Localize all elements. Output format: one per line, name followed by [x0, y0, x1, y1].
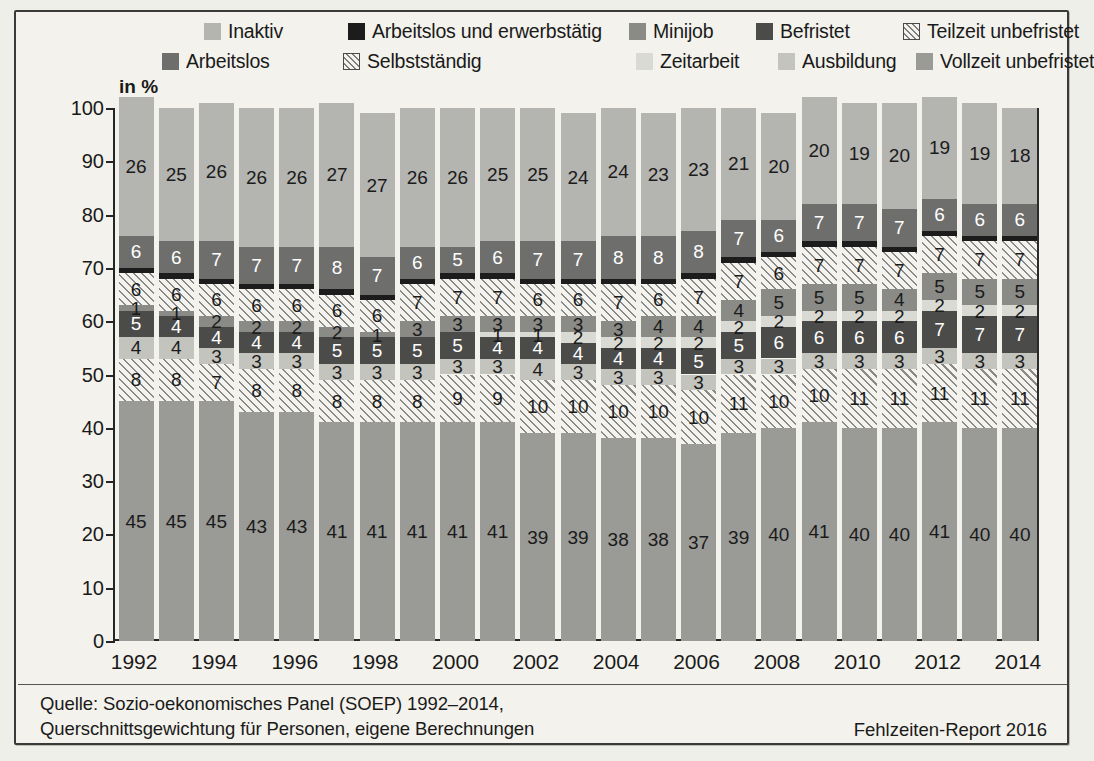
bar-2013[interactable]: 401137257619 — [962, 108, 997, 639]
segment-ausbildung-2000: 3 — [440, 359, 475, 375]
segment-value-selbst-2006: 10 — [688, 408, 709, 427]
segment-zeitarbeit-2010: 2 — [842, 311, 877, 322]
segment-zeitarbeit-2006: 2 — [681, 337, 716, 348]
segment-selbst-2009: 10 — [802, 369, 837, 422]
segment-value-teilzeit-2014: 7 — [1015, 250, 1026, 269]
segment-selbst-1997: 8 — [319, 380, 354, 423]
segment-value-inaktiv-2014: 18 — [1009, 146, 1030, 165]
segment-value-arbeitslos-2002: 7 — [533, 250, 544, 269]
bar-2003[interactable]: 391034236724 — [561, 108, 596, 639]
segment-value-befristet-2007: 5 — [733, 336, 744, 355]
bar-1996[interactable]: 4383426726 — [279, 108, 314, 639]
legend-item-selbst[interactable]: Selbstständig — [343, 48, 481, 74]
legend-item-teilzeit[interactable]: Teilzeit unbefristet — [903, 18, 1079, 44]
bar-2005[interactable]: 381034246823 — [641, 108, 676, 639]
segment-value-zeitarbeit-2013: 2 — [974, 301, 985, 320]
bar-2010[interactable]: 401136257719 — [842, 108, 877, 639]
segment-selbst-2011: 11 — [882, 369, 917, 428]
bar-1992[interactable]: 4584516626 — [119, 108, 154, 639]
segment-ausbildung-1995: 3 — [239, 353, 274, 369]
legend-item-ausbildung[interactable]: Ausbildung — [778, 48, 897, 74]
arbeitslos-swatch — [162, 53, 179, 70]
x-tick-label-2004: 2004 — [593, 650, 640, 674]
segment-teilzeit-2010: 7 — [842, 247, 877, 284]
legend-item-alew[interactable]: Arbeitslos und erwerbstätig — [348, 18, 602, 44]
bar-1995[interactable]: 4383426726 — [239, 108, 274, 639]
segment-minijob-1992: 1 — [119, 305, 154, 310]
segment-value-inaktiv-2005: 23 — [648, 165, 669, 184]
segment-arbeitslos-1993: 6 — [159, 241, 194, 273]
segment-value-arbeitslos-2012: 6 — [934, 205, 945, 224]
legend-item-arbeitslos[interactable]: Arbeitslos — [162, 48, 270, 74]
segment-value-inaktiv-2008: 20 — [768, 157, 789, 176]
segment-value-teilzeit-1995: 6 — [251, 296, 262, 315]
segment-value-ausbildung-2012: 3 — [934, 346, 945, 365]
bar-2004[interactable]: 381034237824 — [601, 108, 636, 639]
segment-value-vollzeit-2010: 40 — [849, 525, 870, 544]
segment-value-teilzeit-1992: 6 — [131, 280, 142, 299]
legend-item-vollzeit[interactable]: Vollzeit unbefristet — [916, 48, 1094, 74]
segment-ausbildung-1994: 3 — [199, 348, 234, 364]
minijob-swatch — [629, 23, 646, 40]
segment-value-teilzeit-1996: 6 — [291, 296, 302, 315]
segment-value-inaktiv-2013: 19 — [969, 144, 990, 163]
x-tick-label-2008: 2008 — [754, 650, 801, 674]
bar-1998[interactable]: 4183516727 — [360, 108, 395, 639]
legend-item-inaktiv[interactable]: Inaktiv — [204, 18, 283, 44]
segment-zeitarbeit-2012: 2 — [922, 300, 957, 311]
segment-value-minijob-2005: 4 — [653, 317, 664, 336]
segment-value-ausbildung-2006: 3 — [693, 373, 704, 392]
bar-1999[interactable]: 4183537626 — [400, 108, 435, 639]
legend-label-vollzeit: Vollzeit unbefristet — [940, 50, 1094, 73]
segment-arbeitslos-2002: 7 — [520, 241, 555, 278]
bar-2008[interactable]: 401036256620 — [761, 108, 796, 639]
segment-inaktiv-1998: 27 — [360, 113, 395, 257]
x-tick-label-2000: 2000 — [432, 650, 479, 674]
bar-2007[interactable]: 391135247721 — [721, 108, 756, 639]
segment-value-vollzeit-2002: 39 — [527, 528, 548, 547]
y-tick-mark-100 — [106, 108, 115, 110]
bar-2012[interactable]: 411137257619 — [922, 108, 957, 639]
segment-value-ausbildung-1994: 3 — [211, 346, 222, 365]
bar-2011[interactable]: 401136247720 — [882, 108, 917, 639]
segment-minijob-2003: 3 — [561, 316, 596, 332]
segment-value-minijob-1994: 2 — [211, 312, 222, 331]
segment-vollzeit-2012: 41 — [922, 422, 957, 641]
segment-alew-2007 — [721, 257, 756, 262]
segment-value-selbst-2000: 9 — [452, 389, 463, 408]
segment-value-inaktiv-1992: 26 — [126, 157, 147, 176]
source-line-1: Quelle: Sozio-oekonomisches Panel (SOEP)… — [40, 691, 534, 716]
bar-1994[interactable]: 4573426726 — [199, 108, 234, 639]
segment-value-minijob-2010: 5 — [854, 288, 865, 307]
segment-selbst-2005: 10 — [641, 385, 676, 438]
legend-item-minijob[interactable]: Minijob — [629, 18, 713, 44]
segment-value-selbst-2002: 10 — [527, 397, 548, 416]
segment-value-selbst-1996: 8 — [291, 381, 302, 400]
bar-2006[interactable]: 371035247823 — [681, 108, 716, 639]
segment-value-vollzeit-2005: 38 — [648, 530, 669, 549]
legend-item-zeitarbeit[interactable]: Zeitarbeit — [636, 48, 739, 74]
x-tick-label-1998: 1998 — [352, 650, 399, 674]
segment-value-minijob-2002: 3 — [533, 314, 544, 333]
segment-value-befristet-2014: 7 — [1015, 325, 1026, 344]
source-line-2: Querschnittsgewichtung für Personen, eig… — [40, 716, 534, 741]
segment-value-selbst-1997: 8 — [332, 392, 343, 411]
segment-value-minijob-1997: 2 — [332, 322, 343, 341]
teilzeit-unbefristet-swatch — [903, 23, 920, 40]
bar-2014[interactable]: 401137257618 — [1002, 108, 1037, 639]
bar-2000[interactable]: 4193537526 — [440, 108, 475, 639]
legend-item-befristet[interactable]: Befristet — [756, 18, 850, 44]
segment-value-minijob-1999: 3 — [412, 320, 423, 339]
segment-inaktiv-2004: 24 — [601, 108, 636, 236]
legend-label-teilzeit: Teilzeit unbefristet — [927, 20, 1079, 43]
bar-1997[interactable]: 4183526827 — [319, 108, 354, 639]
segment-value-teilzeit-2004: 7 — [613, 293, 624, 312]
bar-2002[interactable]: 391044136725 — [520, 108, 555, 639]
bar-2009[interactable]: 411036257720 — [802, 108, 837, 639]
segment-inaktiv-2002: 25 — [520, 108, 555, 241]
segment-value-inaktiv-2012: 19 — [929, 138, 950, 157]
y-axis-unit-label: in % — [119, 76, 158, 98]
bar-1993[interactable]: 4584416625 — [159, 108, 194, 639]
bar-2001[interactable]: 41934137625 — [480, 108, 515, 639]
segment-value-arbeitslos-1993: 6 — [171, 248, 182, 267]
